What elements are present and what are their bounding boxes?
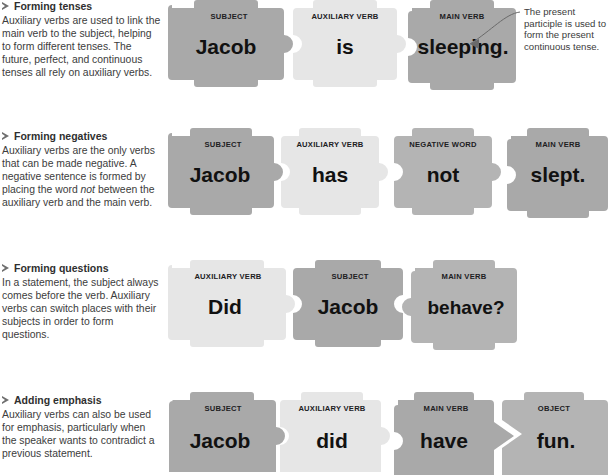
annotation-present-participle: The present participle is used to form t…	[524, 6, 610, 52]
piece-word: sleeping.	[417, 35, 508, 58]
piece-word: not	[427, 163, 460, 186]
piece-label: OBJECT	[538, 404, 570, 413]
note-forming-negatives: Forming negatives Auxiliary verbs are th…	[2, 130, 162, 209]
puzzle-row-forming-tenses: SUBJECT Jacob AUXILIARY VERB is MAIN VER…	[168, 2, 518, 80]
triangle-right-icon	[2, 396, 9, 404]
note-forming-tenses: Forming tenses Auxiliary verbs are used …	[2, 0, 162, 79]
piece-word: Jacob	[190, 163, 251, 186]
piece-word: has	[312, 163, 348, 186]
note-heading-text: Forming tenses	[14, 0, 92, 12]
piece-label: AUXILIARY VERB	[194, 272, 261, 281]
piece-label: MAIN VERB	[442, 272, 487, 281]
piece-label: SUBJECT	[204, 140, 241, 149]
piece-label: SUBJECT	[210, 12, 247, 21]
note-body: Auxiliary verbs are the only verbs that …	[2, 144, 162, 209]
note-forming-questions: Forming questions In a statement, the su…	[2, 262, 162, 341]
puzzle-row-forming-negatives: SUBJECT Jacob AUXILIARY VERB has NEGATIV…	[168, 130, 608, 208]
piece-label: SUBJECT	[331, 272, 368, 281]
piece-label: NEGATIVE WORD	[409, 140, 477, 149]
piece-word: Did	[208, 295, 242, 318]
note-heading: Forming questions	[2, 262, 162, 275]
auxiliary-verbs-infographic: Forming tenses Auxiliary verbs are used …	[0, 0, 611, 475]
piece-label: MAIN VERB	[536, 140, 581, 149]
note-heading: Adding emphasis	[2, 394, 162, 407]
triangle-right-icon	[2, 2, 9, 10]
note-body-emphasis: not	[81, 184, 95, 195]
piece-label: AUXILIARY VERB	[311, 12, 378, 21]
piece-label: AUXILIARY VERB	[296, 140, 363, 149]
piece-word: did	[316, 429, 348, 452]
piece-label: MAIN VERB	[440, 12, 485, 21]
note-heading-text: Adding emphasis	[14, 394, 102, 406]
piece-word: slept.	[531, 163, 586, 186]
triangle-right-icon	[2, 132, 9, 140]
triangle-right-icon	[2, 264, 9, 272]
puzzle-row-adding-emphasis: SUBJECT Jacob AUXILIARY VERB did MAIN VE…	[168, 394, 608, 475]
piece-word: fun.	[537, 429, 575, 452]
puzzle-row-forming-questions: AUXILIARY VERB Did SUBJECT Jacob MAIN VE…	[168, 262, 518, 340]
note-heading: Forming negatives	[2, 130, 162, 143]
note-heading: Forming tenses	[2, 0, 162, 13]
piece-label: MAIN VERB	[424, 404, 469, 413]
note-body: Auxiliary verbs are used to link the mai…	[2, 14, 162, 79]
note-adding-emphasis: Adding emphasis Auxiliary verbs can also…	[2, 394, 162, 460]
piece-word: have	[420, 429, 468, 452]
piece-word: Jacob	[318, 295, 379, 318]
piece-word: Jacob	[190, 429, 251, 452]
note-heading-text: Forming questions	[14, 262, 109, 274]
piece-label: AUXILIARY VERB	[298, 404, 365, 413]
note-heading-text: Forming negatives	[14, 130, 107, 142]
piece-word: Jacob	[196, 35, 257, 58]
annotation-text: The present participle is used to form t…	[524, 6, 606, 52]
piece-word: is	[336, 35, 354, 58]
note-body: Auxiliary verbs can also be used for emp…	[2, 408, 162, 460]
note-body: In a statement, the subject always comes…	[2, 276, 162, 341]
piece-label: SUBJECT	[204, 404, 241, 413]
piece-word: behave?	[427, 297, 504, 318]
